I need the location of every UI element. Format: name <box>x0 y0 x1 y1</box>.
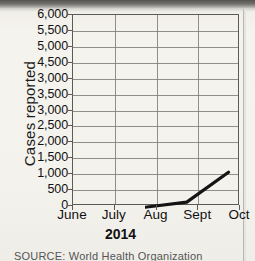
x-axis-title: 2014 <box>0 226 255 242</box>
y-tick-label: 5,000 <box>22 40 68 53</box>
y-tick-label: 2,000 <box>22 135 68 148</box>
y-tick-label: 3,500 <box>22 88 68 101</box>
line-chart: Cases reported 6,0005,5005,0004,5003,000… <box>0 0 255 261</box>
x-tick-label: Aug <box>143 207 167 222</box>
y-tick-label: 3,000 <box>22 72 68 85</box>
y-tick-label: 500 <box>22 183 68 196</box>
y-tick-label: 2,500 <box>22 119 68 132</box>
x-tick-label: June <box>57 207 86 222</box>
x-tick-label: Sept <box>183 207 211 222</box>
data-series-line <box>145 29 255 220</box>
y-tick-label: 1,000 <box>22 167 68 180</box>
y-tick-label: 4,500 <box>22 56 68 69</box>
y-tick-label: 5,500 <box>22 24 68 37</box>
x-tick-label: Oct <box>228 207 249 222</box>
x-axis-title-text: 2014 <box>105 226 136 242</box>
y-tick-label: 1,500 <box>22 151 68 164</box>
x-tick-label: July <box>102 207 126 222</box>
x-axis-tick-labels: JuneJulyAugSeptOct <box>72 207 255 227</box>
vertical-gridline <box>115 15 116 204</box>
y-tick-label: 3,000 <box>22 104 68 117</box>
plot-area <box>72 14 239 205</box>
y-axis-tick-labels: 6,0005,5005,0004,5003,0003,5003,0002,500… <box>20 14 68 205</box>
source-credit: SOURCE: World Health Organization <box>14 250 244 261</box>
y-tick-label: 6,000 <box>22 8 68 21</box>
